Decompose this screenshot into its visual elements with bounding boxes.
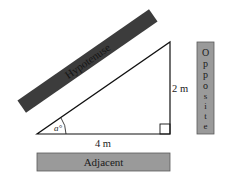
adjacent-label: Adjacent — [84, 156, 124, 168]
opposite-letter: e — [204, 121, 208, 131]
triangle-diagram: Hypotenuse a° 4 m 2 m O p p o s i t e Ad… — [0, 0, 229, 182]
opposite-letter: s — [204, 91, 208, 101]
opposite-letter: O — [202, 47, 209, 58]
opposite-length-label: 2 m — [172, 83, 188, 94]
adjacent-length-label: 4 m — [95, 138, 111, 149]
opposite-letter: p — [203, 69, 208, 80]
opposite-letter: o — [203, 80, 208, 91]
angle-label: a° — [54, 123, 63, 133]
hypotenuse-label: Hypotenuse — [62, 41, 112, 81]
opposite-bar: O p p o s i t e — [197, 42, 214, 134]
adjacent-bar: Adjacent — [37, 153, 170, 171]
opposite-letter: p — [203, 58, 208, 69]
